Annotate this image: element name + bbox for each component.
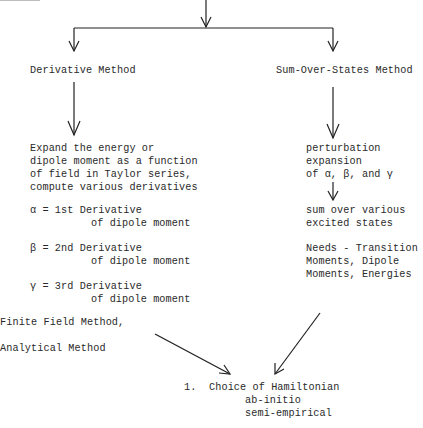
analytical-method: Analytical Method — [0, 342, 106, 355]
perturbation-line-2: expansion — [306, 155, 362, 168]
derivative-desc-line-1: Expand the energy or — [30, 142, 154, 155]
perturbation-line-1: perturbation — [306, 142, 381, 155]
beta-definition-cont: of dipole moment — [91, 255, 190, 268]
result-number: 1. — [184, 381, 196, 394]
result-title: Choice of Hamiltonian — [209, 381, 339, 394]
gamma-definition-cont: of dipole moment — [91, 293, 190, 306]
result-option-ab-initio: ab-initio — [245, 394, 301, 407]
derivative-desc-line-3: of field in Taylor series, — [30, 168, 192, 181]
derivative-desc-line-4: compute various derivatives — [30, 181, 198, 194]
sum-over-line-1: sum over various — [306, 204, 405, 217]
gamma-definition: γ = 3rd Derivative — [30, 280, 142, 293]
needs-line-2: Moments, Dipole — [306, 255, 399, 268]
sum-over-states-title: Sum-Over-States Method — [276, 64, 413, 77]
derivative-desc-line-2: dipole moment as a function — [30, 155, 198, 168]
alpha-definition-cont: of dipole moment — [91, 217, 190, 230]
needs-line-1: Needs - Transition — [306, 242, 418, 255]
result-option-semi-empirical: semi-empirical — [245, 407, 332, 420]
needs-line-3: Moments, Energies — [306, 268, 412, 281]
beta-definition: β = 2nd Derivative — [30, 242, 142, 255]
perturbation-line-3: of α, β, and γ — [306, 168, 393, 181]
finite-field-method: Finite Field Method, — [0, 316, 124, 329]
alpha-definition: α = 1st Derivative — [30, 204, 142, 217]
derivative-method-title: Derivative Method — [30, 64, 136, 77]
sum-over-line-2: excited states — [306, 217, 393, 230]
